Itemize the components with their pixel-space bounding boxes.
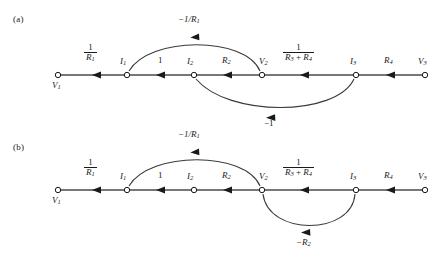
panel-a-arc-v2-to-i1 <box>129 45 260 71</box>
panel-a-label-v2: V2 <box>259 57 268 67</box>
panel-a-arrow-i1-i2 <box>156 72 165 79</box>
panel-b-node-v2 <box>259 187 264 192</box>
panel-a-arc-i3-to-i2 <box>196 79 354 108</box>
panel-b-gain-arc-top: −1/R1 <box>178 130 200 140</box>
panel-a-node-v1 <box>55 72 60 77</box>
panel-a-arrow-i3-v3 <box>386 72 395 79</box>
panel-a-label-v3: V3 <box>418 57 427 67</box>
panel-b-label-v1: V1 <box>52 196 61 206</box>
panel-b-arrow-i3-v3 <box>386 187 395 194</box>
panel-a-label-i3: I3 <box>350 57 356 67</box>
panel-a-graph <box>55 34 427 121</box>
panel-a-label-v1: V1 <box>52 81 61 91</box>
panel-b-arrow-v2-i3 <box>300 187 309 194</box>
panel-a-gain-i1-i2: 1 <box>158 56 163 65</box>
panel-b-gain-v2-i3: 1 R3 + R4 <box>283 158 314 179</box>
panel-b-arrow-v1-i1 <box>92 187 101 194</box>
graph-canvas <box>0 0 446 259</box>
panel-b-node-i1 <box>124 187 129 192</box>
panel-a-gain-v2-i3: 1 R3 + R4 <box>283 43 314 64</box>
panel-a-node-v3 <box>422 72 427 77</box>
panel-a-arrow-v1-i1 <box>92 72 101 79</box>
panel-b-label-i2: I2 <box>187 172 193 182</box>
panel-b-gain-arc-bottom: −R2 <box>296 238 311 248</box>
panel-a-arrow-v2-i3 <box>300 72 309 79</box>
panel-a-node-v2 <box>259 72 264 77</box>
panel-b-label-v2: V2 <box>259 172 268 182</box>
panel-b-node-i3 <box>353 187 358 192</box>
panel-a-gain-arc-top: −1/R1 <box>178 15 200 25</box>
panel-a-arrow-arc-top <box>190 34 199 41</box>
panel-a-gain-i2-v2: R2 <box>222 56 231 66</box>
panel-b-arrow-i2-v2 <box>223 187 232 194</box>
panel-b-arrow-arc-top <box>190 149 199 156</box>
panel-a-node-i2 <box>191 72 196 77</box>
panel-b-node-v3 <box>422 187 427 192</box>
signal-flow-graph-figure: (a) V1 I1 I2 V2 I3 V3 1 R1 1 R2 1 R3 + R… <box>0 0 446 259</box>
panel-b-gain-i3-v3: R4 <box>384 171 393 181</box>
panel-b-node-i2 <box>191 187 196 192</box>
panel-a-node-i3 <box>353 72 358 77</box>
panel-b-arrow-i1-i2 <box>156 187 165 194</box>
panel-a-gain-arc-bottom: −1 <box>264 119 274 128</box>
panel-b-arc-i3-to-v2 <box>263 194 355 226</box>
panel-a-label-i2: I2 <box>187 57 193 67</box>
panel-b-gain-v1-i1: 1 R1 <box>84 158 97 179</box>
panel-a-gain-v1-i1: 1 R1 <box>84 43 97 64</box>
panel-b-gain-i2-v2: R2 <box>222 171 231 181</box>
panel-b-graph <box>55 149 427 236</box>
panel-a-label-i1: I1 <box>120 57 126 67</box>
panel-b-label-i1: I1 <box>120 172 126 182</box>
panel-b-label-v3: V3 <box>418 172 427 182</box>
panel-a-gain-i3-v3: R4 <box>384 56 393 66</box>
panel-a-node-i1 <box>124 72 129 77</box>
panel-b-gain-i1-i2: 1 <box>158 171 163 180</box>
panel-a-tag: (a) <box>13 14 24 24</box>
panel-b-tag: (b) <box>13 142 24 152</box>
panel-b-node-v1 <box>55 187 60 192</box>
panel-b-arrow-arc-bottom <box>301 229 310 236</box>
panel-a-arrow-i2-v2 <box>223 72 232 79</box>
panel-b-arc-v2-to-i1 <box>129 160 260 186</box>
panel-b-label-i3: I3 <box>350 172 356 182</box>
